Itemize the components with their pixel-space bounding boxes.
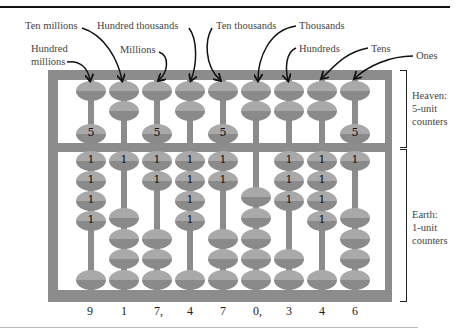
heaven-label-2: 5-unit bbox=[412, 102, 437, 115]
pointer-arrows bbox=[0, 0, 469, 334]
digit-millions: 7, bbox=[154, 304, 163, 319]
heaven-bracket bbox=[400, 70, 407, 148]
earth-bracket bbox=[400, 149, 407, 302]
earth-label-3: counters bbox=[412, 234, 448, 247]
digit-ten-thousands: 7 bbox=[220, 304, 226, 319]
digit-thousands: 0, bbox=[253, 304, 262, 319]
heaven-label-3: counters bbox=[412, 115, 448, 128]
digit-hundreds: 3 bbox=[286, 304, 292, 319]
digit-hundred-millions: 9 bbox=[87, 304, 93, 319]
digit-ten-millions: 1 bbox=[121, 304, 127, 319]
earth-label-1: Earth: bbox=[412, 208, 438, 221]
digit-hundred-thousands: 4 bbox=[187, 304, 193, 319]
heaven-label-1: Heaven: bbox=[412, 89, 447, 102]
digit-tens: 4 bbox=[319, 304, 325, 319]
digit-ones: 6 bbox=[352, 304, 358, 319]
earth-label-2: 1-unit bbox=[412, 221, 437, 234]
bottom-rule bbox=[0, 327, 418, 328]
